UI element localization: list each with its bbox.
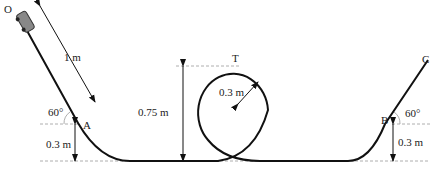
- angle-left-label: 60°: [48, 107, 63, 118]
- track-diagram: O 1 m 60° A 0.3 m 0.75 m T 0.3 m B 60° 0…: [0, 0, 439, 170]
- height-A-label: 0.3 m: [46, 139, 71, 150]
- angle-right-label: 60°: [405, 108, 420, 119]
- loop-radius-label: 0.3 m: [219, 87, 244, 98]
- point-A-label: A: [83, 120, 91, 131]
- point-C-label: C: [422, 54, 429, 65]
- point-T-label: T: [232, 53, 239, 64]
- point-B-label: B: [381, 115, 388, 126]
- height-B-label: 0.3 m: [398, 137, 423, 148]
- angle-arc-right: [394, 112, 400, 124]
- angle-arc-left: [64, 112, 70, 124]
- point-O-label: O: [4, 4, 12, 15]
- incline-length-label: 1 m: [64, 52, 81, 63]
- loop-height-label: 0.75 m: [138, 107, 169, 118]
- car-icon: [14, 10, 35, 34]
